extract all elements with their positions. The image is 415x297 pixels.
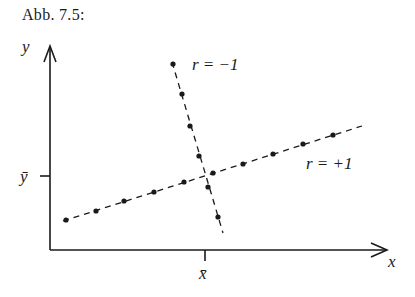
data-point bbox=[179, 91, 184, 96]
data-point bbox=[151, 189, 156, 194]
data-point bbox=[270, 151, 275, 156]
data-point bbox=[205, 184, 210, 189]
y-mean-label: ȳ bbox=[18, 167, 28, 186]
data-point bbox=[196, 153, 201, 158]
data-point bbox=[210, 170, 215, 175]
series-positive bbox=[63, 126, 362, 223]
series-negative bbox=[170, 61, 223, 233]
y-axis-label: y bbox=[20, 37, 30, 56]
negative-regression-line bbox=[172, 62, 223, 233]
data-point bbox=[170, 61, 175, 66]
data-point bbox=[300, 141, 305, 146]
x-mean-label: x̄ bbox=[198, 264, 207, 283]
x-axis-label: x bbox=[387, 252, 396, 271]
correlation-diagram: y x x̄ ȳ r = −1 r = +1 bbox=[0, 0, 415, 297]
data-point bbox=[215, 214, 220, 219]
label-r-positive: r = +1 bbox=[306, 154, 353, 173]
label-r-negative: r = −1 bbox=[192, 55, 239, 74]
data-point bbox=[187, 123, 192, 128]
data-point bbox=[63, 217, 68, 222]
data-point bbox=[240, 161, 245, 166]
data-point bbox=[121, 198, 126, 203]
data-point bbox=[93, 208, 98, 213]
data-point bbox=[181, 179, 186, 184]
data-point bbox=[330, 132, 335, 137]
